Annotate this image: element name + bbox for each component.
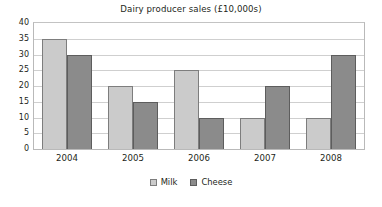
y-tick-label: 30 xyxy=(0,51,29,59)
bar-cheese-2006 xyxy=(199,118,224,150)
legend-label: Milk xyxy=(161,178,178,187)
y-tick-label: 20 xyxy=(0,82,29,90)
y-tick-label: 10 xyxy=(0,114,29,122)
bar-chart: Dairy producer sales (£10,000s) 05101520… xyxy=(0,0,382,207)
bar-cheese-2007 xyxy=(265,86,290,149)
y-axis: 0510152025303540 xyxy=(0,22,29,150)
x-tick-label: 2008 xyxy=(298,153,364,164)
y-tick-label: 15 xyxy=(0,98,29,106)
chart-legend: MilkCheese xyxy=(0,178,382,187)
bar-cheese-2005 xyxy=(133,102,158,149)
bar-milk-2004 xyxy=(42,39,67,149)
bar-milk-2005 xyxy=(108,86,133,149)
bar-cheese-2008 xyxy=(331,55,356,150)
legend-swatch-cheese-icon xyxy=(190,179,197,186)
y-tick-label: 35 xyxy=(0,35,29,43)
x-tick-label: 2004 xyxy=(34,153,100,164)
bar-cheese-2004 xyxy=(67,55,92,150)
x-tick-label: 2007 xyxy=(232,153,298,164)
bar-milk-2008 xyxy=(306,118,331,150)
bar-milk-2007 xyxy=(240,118,265,150)
x-tick-label: 2006 xyxy=(166,153,232,164)
x-tick-label: 2005 xyxy=(100,153,166,164)
legend-swatch-milk-icon xyxy=(150,179,157,186)
bars-layer xyxy=(34,23,364,149)
y-tick-label: 0 xyxy=(0,145,29,153)
x-axis: 20042005200620072008 xyxy=(33,153,365,167)
y-tick-label: 25 xyxy=(0,66,29,74)
chart-title: Dairy producer sales (£10,000s) xyxy=(0,4,382,14)
bar-milk-2006 xyxy=(174,70,199,149)
y-tick-label: 40 xyxy=(0,19,29,27)
legend-item-cheese: Cheese xyxy=(190,178,232,187)
legend-item-milk: Milk xyxy=(150,178,178,187)
y-tick-label: 5 xyxy=(0,129,29,137)
legend-label: Cheese xyxy=(201,178,232,187)
